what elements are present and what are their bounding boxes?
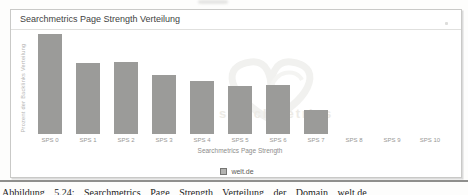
bar-slot-sps-6 <box>259 34 297 134</box>
bar-slot-sps-3 <box>145 34 183 134</box>
panel-corner-artifact <box>445 22 448 25</box>
bar-slot-sps-2 <box>107 34 145 134</box>
ticks-row: SPS 0SPS 1SPS 2SPS 3SPS 4SPS 5SPS 6SPS 7… <box>31 137 449 143</box>
tick-label-sps-8: SPS 8 <box>335 137 373 143</box>
chart-panel: Searchmetrics Page Strength Verteilung s… <box>10 9 462 178</box>
bar-slot-sps-9 <box>373 34 411 134</box>
tick-label-sps-5: SPS 5 <box>221 137 259 143</box>
bar-slot-sps-7 <box>297 34 335 134</box>
y-axis-label: Prozent der Backlinks Verteilung <box>20 44 26 133</box>
document-page: { "page": { "caption": "Abbildung 5.24: … <box>0 0 468 195</box>
tick-label-sps-9: SPS 9 <box>373 137 411 143</box>
bar-slot-sps-4 <box>183 34 221 134</box>
bar-sps-1 <box>76 63 100 134</box>
chart-title: Searchmetrics Page Strength Verteilung <box>11 10 461 30</box>
bar-slot-sps-0 <box>31 34 69 134</box>
cut-off-page-artifact <box>198 0 228 4</box>
bar-sps-6 <box>266 85 290 134</box>
tick-label-sps-6: SPS 6 <box>259 137 297 143</box>
tick-label-sps-10: SPS 10 <box>411 137 449 143</box>
bar-sps-5 <box>228 86 252 134</box>
tick-label-sps-1: SPS 1 <box>69 137 107 143</box>
tick-label-sps-7: SPS 7 <box>297 137 335 143</box>
bar-slot-sps-5 <box>221 34 259 134</box>
legend-label: welt.de <box>231 168 253 175</box>
tick-label-sps-0: SPS 0 <box>31 137 69 143</box>
bar-sps-2 <box>114 62 138 134</box>
bar-sps-4 <box>190 81 214 134</box>
legend-swatch-icon <box>220 168 227 175</box>
tick-label-sps-4: SPS 4 <box>183 137 221 143</box>
x-axis-label: Searchmetrics Page Strength <box>31 147 449 154</box>
bar-slot-sps-10 <box>411 34 449 134</box>
tick-label-sps-2: SPS 2 <box>107 137 145 143</box>
bars-row <box>31 34 449 134</box>
tick-label-sps-3: SPS 3 <box>145 137 183 143</box>
legend: welt.de <box>11 168 463 175</box>
bar-sps-3 <box>152 75 176 134</box>
bar-sps-0 <box>38 34 62 134</box>
figure-caption: Abbildung 5.24: Searchmetrics Page Stren… <box>2 187 468 195</box>
figure-bottom-rule <box>0 180 468 182</box>
bar-slot-sps-8 <box>335 34 373 134</box>
bar-slot-sps-1 <box>69 34 107 134</box>
bar-sps-7 <box>304 110 328 134</box>
